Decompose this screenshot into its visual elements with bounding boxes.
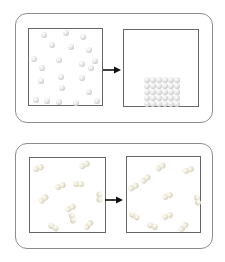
diatomic-molecule-particle <box>78 160 91 171</box>
atom-particle <box>92 58 98 64</box>
particle-diagram-figure <box>0 0 225 262</box>
atom-particle <box>49 42 55 48</box>
diatomic-molecule-particle <box>161 191 174 201</box>
molecule-atom <box>69 217 76 224</box>
atom-particle <box>59 85 65 91</box>
arrow-right-icon <box>103 60 121 68</box>
diatomic-molecule-particle <box>161 211 173 220</box>
atom-particle <box>39 65 45 71</box>
atom-particle <box>58 74 64 80</box>
diatomic-molecule-particle <box>146 221 158 230</box>
diatomic-molecule-particle <box>47 222 60 233</box>
bottom-left-molecules-box <box>29 157 106 233</box>
atom-particle <box>94 98 100 104</box>
atom-particle <box>41 32 47 38</box>
molecule-atom <box>194 199 201 206</box>
diatomic-molecule-particle <box>54 181 67 191</box>
atom-particle <box>86 89 92 95</box>
bottom-panel <box>15 143 213 249</box>
atom-particle <box>88 65 94 71</box>
diatomic-molecule-particle <box>182 165 194 174</box>
diatomic-molecule-particle <box>177 221 189 233</box>
diatomic-molecule-particle <box>139 173 151 185</box>
atom-particle <box>44 98 50 104</box>
diatomic-molecule-particle <box>68 212 77 224</box>
diatomic-molecule-particle <box>154 161 166 172</box>
diatomic-molecule-particle <box>127 182 140 193</box>
atom-particle <box>79 75 85 81</box>
diatomic-molecule-particle <box>37 193 49 205</box>
diatomic-molecule-particle <box>193 194 201 206</box>
atom-particle <box>38 78 44 84</box>
atom-particle <box>68 44 74 50</box>
diatomic-molecule-particle <box>82 219 94 231</box>
atom-particle <box>79 61 85 67</box>
atom-particle <box>56 57 62 63</box>
atom-particle <box>56 99 62 105</box>
molecule-atom <box>151 223 159 231</box>
top-right-lattice-box <box>123 29 199 107</box>
molecule-atom <box>78 181 84 187</box>
diatomic-molecule-particle <box>32 163 44 172</box>
atom-particle <box>73 100 79 106</box>
top-left-scattered-atoms-box <box>28 28 103 106</box>
lattice-atom-particle <box>174 101 180 107</box>
diatomic-molecule-particle <box>73 181 84 187</box>
molecule-atom <box>96 197 102 203</box>
atom-particle <box>63 30 69 36</box>
atom-particle <box>33 97 39 103</box>
atom-particle <box>86 47 92 53</box>
atom-particle <box>31 56 37 62</box>
diatomic-molecule-particle <box>128 211 141 222</box>
diatomic-molecule-particle <box>96 192 102 203</box>
arrow-right-icon <box>105 190 123 198</box>
top-panel <box>15 13 213 123</box>
bottom-right-molecules-box <box>126 156 201 233</box>
atom-particle <box>80 34 86 40</box>
